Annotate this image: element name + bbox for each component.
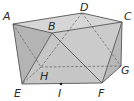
vertex-label-B: B [48, 21, 56, 32]
vertex-label-A: A [3, 11, 11, 22]
point-I [60, 83, 63, 86]
vertex-label-D: D [80, 2, 88, 13]
vertex-label-G: G [121, 65, 130, 76]
polyhedron-figure [0, 0, 134, 101]
polyhedron-diagram: A B C D E F G H I [0, 0, 134, 101]
vertex-label-H: H [40, 71, 48, 82]
vertex-label-E: E [14, 88, 21, 99]
vertex-label-F: F [98, 88, 104, 99]
vertex-label-I: I [58, 88, 61, 99]
vertex-label-C: C [124, 11, 132, 22]
